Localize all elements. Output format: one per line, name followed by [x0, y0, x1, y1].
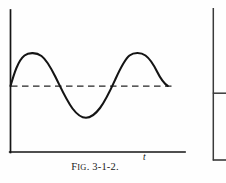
figure-graphic	[0, 0, 226, 183]
figure-page: t FIG. 3-1-2.	[0, 0, 226, 183]
caption-number: . 3-1-2.	[87, 161, 119, 172]
caption-prefix-smallcaps: IG	[77, 163, 86, 172]
sine-curve	[11, 53, 168, 118]
figure-caption: FIG. 3-1-2.	[0, 161, 190, 172]
